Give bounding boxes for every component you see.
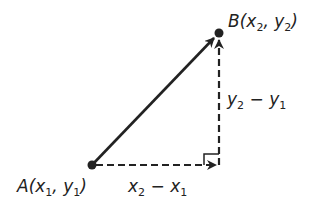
dx-term-a: x: [128, 176, 138, 196]
minus-sign: −: [244, 89, 269, 109]
point-b-letter: B: [228, 11, 240, 31]
dy-sub-a: 2: [237, 99, 244, 112]
dx-sub-a: 2: [138, 186, 145, 199]
comma: ,: [263, 11, 268, 31]
label-point-b: B(x2, y2): [228, 13, 298, 33]
dy-term-b: y: [269, 89, 279, 109]
vector-ab-arrow: [92, 38, 214, 165]
label-point-a: A(x1, y1): [17, 178, 87, 198]
y-var: y: [274, 11, 284, 31]
dy-sub-b: 1: [279, 99, 286, 112]
point-a-letter: A: [17, 176, 29, 196]
comma: ,: [52, 176, 57, 196]
dy-term-a: y: [227, 89, 237, 109]
dx-sub-b: 1: [180, 186, 187, 199]
label-dy: y2 − y1: [227, 91, 286, 111]
minus-sign: −: [145, 176, 170, 196]
y-var: y: [63, 176, 73, 196]
point-b: [215, 29, 224, 38]
x-var: x: [246, 11, 256, 31]
dx-term-b: x: [170, 176, 180, 196]
paren-close: ): [291, 11, 298, 31]
point-a: [88, 161, 97, 170]
x-var: x: [35, 176, 45, 196]
paren-close: ): [80, 176, 87, 196]
label-dx: x2 − x1: [128, 178, 187, 198]
right-angle-marker: [204, 154, 219, 165]
